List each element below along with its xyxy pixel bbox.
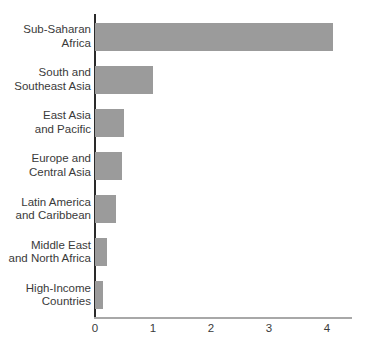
x-tick-label: 0 xyxy=(92,322,98,334)
category-label: High-IncomeCountries xyxy=(0,274,91,317)
bar xyxy=(95,66,153,94)
category-label: East Asiaand Pacific xyxy=(0,101,91,144)
plot-area: Sub-SaharanAfricaSouth andSoutheast Asia… xyxy=(0,0,366,345)
bar xyxy=(95,23,333,51)
x-tick-label: 3 xyxy=(266,322,272,334)
category-label: Latin Americaand Caribbean xyxy=(0,188,91,231)
category-label: South andSoutheast Asia xyxy=(0,58,91,101)
bar xyxy=(95,109,124,137)
bar xyxy=(95,281,103,309)
category-label: Europe andCentral Asia xyxy=(0,144,91,187)
x-tick-label: 2 xyxy=(208,322,214,334)
x-tick-label: 1 xyxy=(150,322,156,334)
category-label: Middle Eastand North Africa xyxy=(0,231,91,274)
x-axis-line xyxy=(94,317,352,319)
category-label: Sub-SaharanAfrica xyxy=(0,15,91,58)
bar xyxy=(95,195,116,223)
bar-chart-figure: Sub-SaharanAfricaSouth andSoutheast Asia… xyxy=(0,0,366,345)
bar xyxy=(95,152,122,180)
x-tick-label: 4 xyxy=(324,322,330,334)
bar xyxy=(95,238,107,266)
